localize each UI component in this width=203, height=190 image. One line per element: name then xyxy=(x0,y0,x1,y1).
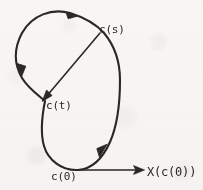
label-c-of-t: c(t) xyxy=(46,100,72,111)
label-vector-field: X(c(0)) xyxy=(147,166,196,178)
chord-cs-to-ct xyxy=(46,33,101,98)
label-c-of-s: c(s) xyxy=(99,24,125,35)
label-c-of-0: c(0) xyxy=(51,171,77,182)
figure-canvas: c(s) c(t) c(0) X(c(0)) xyxy=(0,0,203,190)
